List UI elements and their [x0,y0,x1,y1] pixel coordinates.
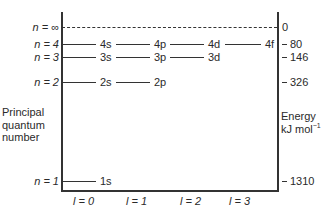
energy-unit: kJ mol [281,123,313,135]
baseline-axis [61,190,279,192]
level-line-4s [62,44,96,45]
level-line-1s [62,181,96,182]
orbital-3s: 3s [100,51,112,63]
orbital-4f: 4f [265,38,274,50]
right-axis [277,12,279,192]
right-axis-title-line1: Energy [281,110,321,123]
energy-tick-146 [282,57,287,58]
level-line-2s [62,82,96,83]
orbital-2s: 2s [100,76,112,88]
level-label-n2: n = 2 [7,76,59,88]
ionization-limit-line [62,27,277,28]
level-line-4d [170,44,204,45]
level-label-n1: n = 1 [7,175,59,187]
energy-tick-1310 [282,181,287,182]
level-line-4p [116,44,150,45]
level-label-n3: n = 3 [7,51,59,63]
energy-tick-326 [282,82,287,83]
energy-value-326: 326 [290,76,308,88]
energy-value-80: 80 [290,38,302,50]
orbital-3p: 3p [154,51,166,63]
level-label-n-inf: n = ∞ [7,21,59,33]
left-axis [61,12,63,192]
left-axis-title-line3: number [2,131,45,144]
orbital-3d: 3d [208,51,220,63]
level-line-3s [62,57,96,58]
energy-value-146: 146 [290,51,308,63]
x-label-l2: l = 2 [180,195,201,207]
left-axis-title: Principal quantum number [2,106,45,144]
level-line-3p [116,57,150,58]
left-axis-title-line2: quantum [2,119,45,132]
level-line-2p [116,82,150,83]
energy-value-1310: 1310 [290,175,314,187]
orbital-2p: 2p [154,76,166,88]
energy-value-0: 0 [282,21,288,33]
left-axis-title-line1: Principal [2,106,45,119]
orbital-4d: 4d [208,38,220,50]
x-label-l0: l = 0 [73,195,94,207]
level-line-4f [225,44,261,45]
right-axis-title-line2: kJ mol−1 [281,123,321,136]
orbital-4p: 4p [154,38,166,50]
energy-unit-exponent: −1 [313,122,321,129]
right-axis-title: Energy kJ mol−1 [281,110,321,135]
x-label-l1: l = 1 [126,195,147,207]
level-line-3d [170,57,204,58]
energy-tick-80 [282,44,287,45]
orbital-4s: 4s [100,38,112,50]
level-label-n4: n = 4 [7,38,59,50]
orbital-1s: 1s [100,175,112,187]
x-label-l3: l = 3 [229,195,250,207]
